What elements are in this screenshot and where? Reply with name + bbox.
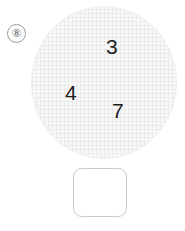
exercise-root: ⑧ 3 4 7 [0, 0, 185, 231]
item-field-circle: 3 4 7 [31, 6, 177, 159]
field-item: 4 [65, 82, 77, 103]
field-item: 7 [112, 100, 124, 121]
answer-input-box[interactable] [73, 168, 127, 217]
question-number-marker: ⑧ [7, 24, 26, 43]
field-item: 3 [106, 36, 118, 57]
